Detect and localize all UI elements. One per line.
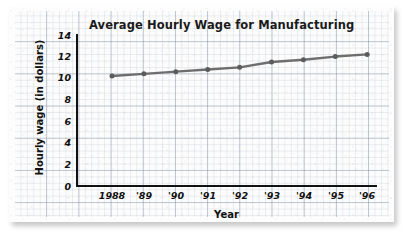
data-point-91 <box>205 67 210 72</box>
data-point-90 <box>173 69 178 74</box>
data-point-1988 <box>110 73 115 78</box>
data-point-95 <box>333 54 338 59</box>
data-point-94 <box>301 57 306 62</box>
data-point-92 <box>237 65 242 70</box>
data-point-93 <box>269 59 274 64</box>
data-point-89 <box>141 71 146 76</box>
screenshot-root: Average Hourly Wage for Manufacturing 0 … <box>0 0 405 236</box>
graph-paper-sheet: Average Hourly Wage for Manufacturing 0 … <box>9 6 394 222</box>
line-chart: Average Hourly Wage for Manufacturing 0 … <box>9 6 394 222</box>
data-point-96 <box>365 52 370 57</box>
plot-area <box>9 6 394 222</box>
